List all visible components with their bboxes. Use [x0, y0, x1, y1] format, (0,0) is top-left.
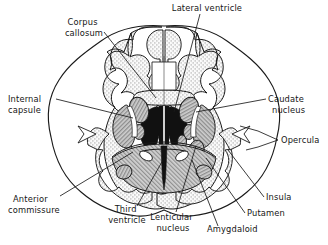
- label-lateral-ventricle: Lateral ventricle: [172, 3, 242, 13]
- label-corpus-callosum: Corpus callosum: [65, 17, 103, 38]
- label-amygdaloid: Amygdaloid: [207, 224, 258, 234]
- label-caudate-nucleus: Caudate nucleus: [268, 94, 307, 115]
- label-opercula: Opercula: [281, 135, 320, 145]
- label-lenticular-nucleus: Lenticular nucleus: [150, 212, 195, 233]
- brain-coronal-section: [48, 26, 279, 217]
- label-putamen: Putamen: [247, 208, 285, 218]
- brain-coronal-section-figure: Lateral ventricle Corpus callosum Intern…: [0, 0, 328, 245]
- diagram-canvas: Lateral ventricle Corpus callosum Intern…: [0, 0, 328, 245]
- label-insula: Insula: [266, 192, 292, 202]
- label-internal-capsule: Internal capsule: [8, 94, 44, 115]
